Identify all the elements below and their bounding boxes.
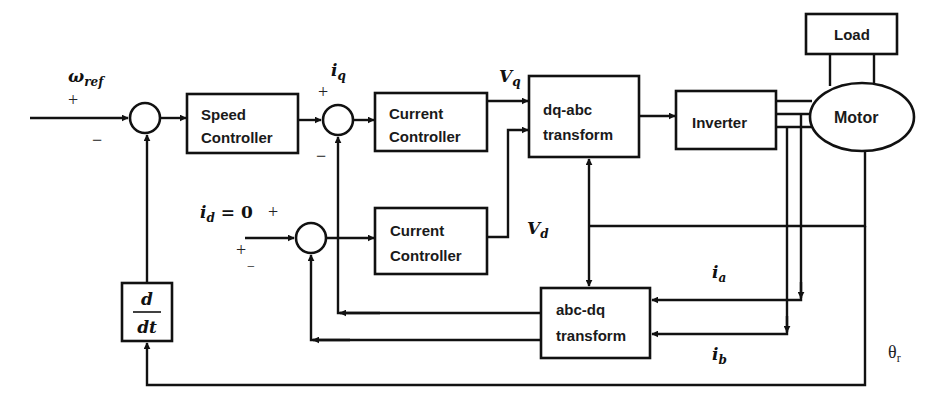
dq-abc-label-2: transform — [543, 126, 613, 143]
derivative-denominator: dt — [137, 317, 157, 337]
theta-r-label: θr — [888, 342, 901, 365]
id-plus-sign-left: + — [236, 240, 246, 260]
id-minus-sign: − — [247, 259, 255, 274]
inverter-label: Inverter — [692, 114, 747, 131]
speed-controller-block: Speed Controller — [187, 94, 298, 153]
speed-controller-label-2: Controller — [201, 129, 273, 146]
current-controller-q-label-1: Current — [389, 105, 443, 122]
theta-to-derivative-wire — [147, 226, 865, 385]
dq-abc-transform-block: dq-abc transform — [529, 76, 639, 157]
ia-label: ia — [712, 262, 726, 285]
speed-summing-junction — [130, 103, 160, 133]
derivative-numerator: d — [141, 289, 153, 309]
vq-label: Vq — [499, 66, 521, 89]
vd-wire — [487, 130, 528, 237]
current-controller-q-block: Current Controller — [375, 93, 487, 151]
current-controller-q-label-2: Controller — [389, 128, 461, 145]
speed-minus-sign: − — [92, 130, 102, 150]
motor-label: Motor — [834, 109, 878, 126]
id-plus-sign-top: + — [268, 202, 278, 222]
theta-wire — [589, 150, 865, 226]
ib-label: ib — [712, 344, 727, 367]
vd-label: Vd — [527, 218, 549, 241]
id-summing-junction — [296, 223, 326, 253]
motor-drive-block-diagram: Speed Controller Current Controller Curr… — [0, 0, 938, 410]
iq-plus-sign: + — [318, 82, 328, 102]
speed-controller-label-1: Speed — [201, 106, 246, 123]
load-block: Load — [806, 14, 897, 54]
id-label: id = 0 — [200, 202, 253, 225]
current-controller-d-label-2: Controller — [390, 247, 462, 264]
iq-label: iq — [331, 60, 346, 83]
abc-dq-transform-block: abc-dq transform — [541, 288, 650, 358]
speed-plus-sign: + — [68, 90, 78, 110]
motor-block: Motor — [810, 83, 914, 151]
omega-ref-label: ωref — [68, 66, 105, 89]
load-label: Load — [834, 26, 870, 43]
iq-summing-junction — [323, 105, 353, 135]
ib-feedback-wire — [652, 127, 787, 334]
current-controller-d-label-1: Current — [390, 222, 444, 239]
iq-minus-sign: − — [316, 146, 326, 166]
derivative-block: d dt — [122, 283, 172, 341]
dq-abc-label-1: dq-abc — [543, 101, 592, 118]
current-controller-d-block: Current Controller — [375, 208, 487, 274]
abc-dq-label-1: abc-dq — [556, 301, 605, 318]
abc-dq-label-2: transform — [556, 327, 626, 344]
inverter-block: Inverter — [676, 91, 776, 149]
